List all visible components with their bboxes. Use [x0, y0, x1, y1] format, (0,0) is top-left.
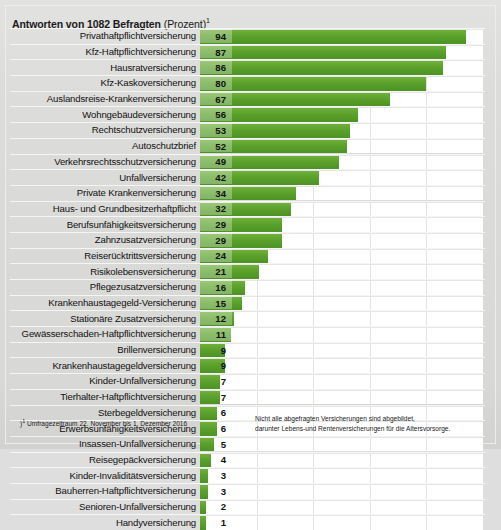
bar-value-label: 7 — [196, 375, 226, 386]
gridline — [426, 469, 427, 483]
gridline — [313, 234, 314, 248]
bar-value-label: 56 — [196, 109, 226, 120]
plot-cell — [200, 390, 483, 405]
gridline — [370, 344, 371, 358]
gridline — [313, 250, 314, 264]
plot-cell — [200, 500, 483, 515]
bar-row: Zahnzusatzversicherung29 — [0, 232, 501, 248]
bar-row: Reisegepäckversicherung4 — [0, 452, 501, 468]
gridline — [426, 359, 427, 373]
category-label: Wohngebäudeversicherung — [0, 109, 196, 120]
bar-row: Rechtschutzversicherung53 — [0, 122, 501, 138]
bar-value-label: 9 — [196, 360, 226, 371]
bar-row: Haus- und Grundbesitzerhaftpflicht32 — [0, 201, 501, 217]
bar-value-label: 80 — [196, 77, 226, 88]
gridline — [426, 265, 427, 279]
footnote-right-line2: darunter Lebens-und Rentenversicherungen… — [255, 424, 450, 434]
bar-value-label: 11 — [196, 328, 226, 339]
plot-cell — [200, 249, 483, 264]
category-label: Gewässerschaden-Haftpflichtversicherung — [0, 328, 196, 339]
bar-row: Kinder-Unfallversicherung7 — [0, 373, 501, 389]
bar-row: Hausratversicherung86 — [0, 59, 501, 75]
gridline — [370, 187, 371, 201]
plot-cell — [200, 29, 483, 44]
gridline — [313, 187, 314, 201]
bar-row: Kfz-Haftpflichtversicherung87 — [0, 44, 501, 60]
bar-row: Stationäre Zusatzversicherung12 — [0, 310, 501, 326]
footnote-left-text: Umfragezeitraum 22. November bis 1. Deze… — [27, 420, 187, 427]
bar-value-label: 5 — [196, 438, 226, 449]
plot-cell — [200, 437, 483, 452]
gridline — [313, 359, 314, 373]
plot-cell — [200, 107, 483, 122]
gridline — [257, 344, 258, 358]
plot-cell — [200, 123, 483, 138]
plot-cell — [200, 484, 483, 499]
gridline — [257, 297, 258, 311]
footnote-right: Nicht alle abgefragten Versicherungen si… — [255, 414, 450, 433]
plot-cell — [200, 202, 483, 217]
bar-row: Bauherren-Haftpflichtversicherung3 — [0, 483, 501, 499]
gridline — [426, 438, 427, 452]
bar-row: Kinder-Invaliditätsversicherung3 — [0, 467, 501, 483]
bar-value-label: 42 — [196, 172, 226, 183]
category-label: Kfz-Kaskoversicherung — [0, 77, 196, 88]
category-label: Private Krankenversicherung — [0, 187, 196, 198]
category-label: Krankenhaustagegeld-Versicherung — [0, 297, 196, 308]
gridline — [370, 359, 371, 373]
bar — [200, 61, 443, 75]
gridline — [313, 297, 314, 311]
gridline — [313, 485, 314, 499]
category-label: Handyversicherung — [0, 517, 196, 528]
gridline — [426, 344, 427, 358]
bar-row: Verkehrsrechtsschutzversicherung49 — [0, 154, 501, 170]
bar-row: Autoschutzbrief52 — [0, 138, 501, 154]
gridline — [257, 281, 258, 295]
plot-cell — [200, 186, 483, 201]
plot-cell — [200, 45, 483, 60]
bar-value-label: 15 — [196, 297, 226, 308]
gridline — [257, 454, 258, 468]
bar-value-label: 32 — [196, 203, 226, 214]
plot-cell — [200, 296, 483, 311]
gridline — [257, 485, 258, 499]
gridline — [426, 93, 427, 107]
gridline — [426, 375, 427, 389]
bar-value-label: 3 — [196, 485, 226, 496]
category-label: Zahnzusatzversicherung — [0, 234, 196, 245]
bar-value-label: 49 — [196, 156, 226, 167]
plot-cell — [200, 453, 483, 468]
gridline — [426, 203, 427, 217]
gridline — [313, 391, 314, 405]
plot-cell — [200, 233, 483, 248]
gridline — [313, 218, 314, 232]
plot-cell — [200, 515, 483, 530]
bar — [200, 77, 426, 91]
gridline — [370, 281, 371, 295]
category-label: Unfallversicherung — [0, 172, 196, 183]
gridline — [370, 454, 371, 468]
gridline — [426, 281, 427, 295]
bar-value-label: 6 — [196, 423, 226, 434]
footnote-left-superscript: 1 — [22, 418, 25, 424]
category-label: Rechtschutzversicherung — [0, 124, 196, 135]
gridline — [426, 250, 427, 264]
plot-cell — [200, 374, 483, 389]
gridline — [370, 171, 371, 185]
category-label: Privathaftpflichtversicherung — [0, 30, 196, 41]
gridline — [370, 140, 371, 154]
bar-value-label: 52 — [196, 140, 226, 151]
bar-row: Private Krankenversicherung34 — [0, 185, 501, 201]
gridline — [257, 312, 258, 326]
plot-cell — [200, 311, 483, 326]
bar-value-label: 7 — [196, 391, 226, 402]
gridline — [313, 312, 314, 326]
plot-cell — [200, 92, 483, 107]
bar-value-label: 29 — [196, 234, 226, 245]
bar — [200, 30, 466, 44]
category-label: Autoschutzbrief — [0, 140, 196, 151]
chart-title-superscript: 1 — [206, 17, 210, 24]
category-label: Bauherren-Haftpflichtversicherung — [0, 485, 196, 496]
category-label: Pflegezusatzversicherung — [0, 281, 196, 292]
